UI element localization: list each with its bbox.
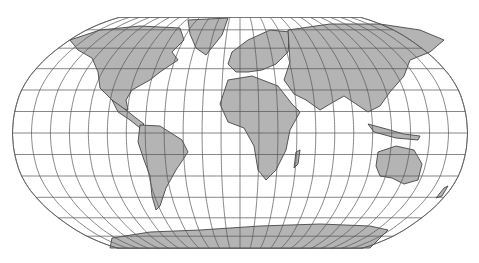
north-america: [70, 26, 184, 110]
africa: [220, 76, 300, 180]
europe: [228, 30, 290, 72]
madagascar: [294, 150, 300, 168]
australia: [376, 146, 422, 184]
world-map: [0, 0, 479, 263]
indonesia: [368, 124, 420, 140]
new-zealand: [436, 186, 448, 198]
